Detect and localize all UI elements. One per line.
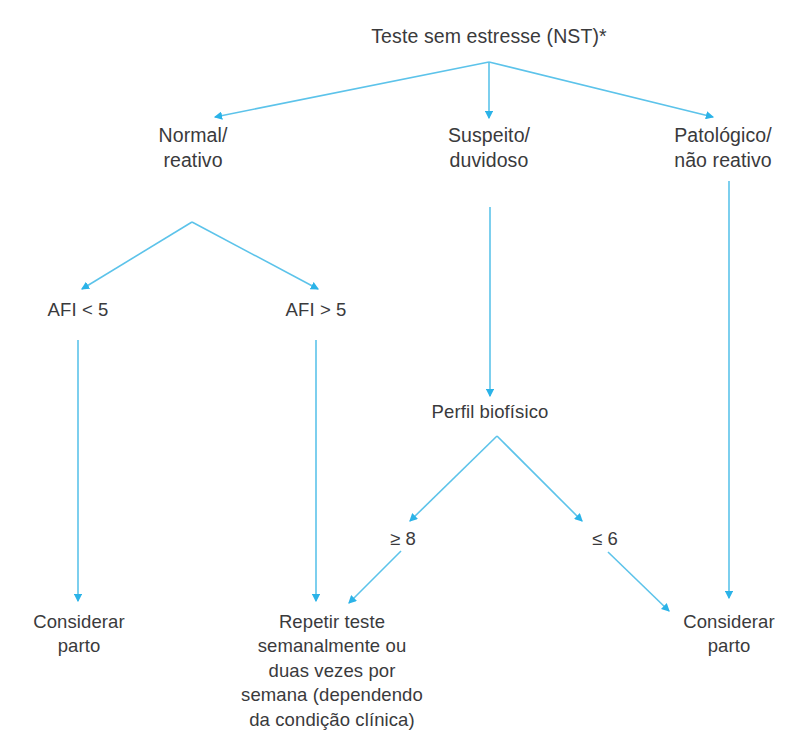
node-afi-lt-5: AFI < 5 (16, 298, 140, 322)
flowchart-diagram: Teste sem estresse (NST)* Normal/ reativ… (0, 0, 806, 753)
node-normal-reativo: Normal/ reativo (118, 123, 268, 173)
node-repetir-teste: Repetir teste semanalmente ou duas vezes… (212, 610, 452, 732)
node-perfil-biofisico: Perfil biofísico (398, 400, 582, 424)
node-score-le-6: ≤ 6 (562, 527, 648, 551)
node-score-ge-8: ≥ 8 (360, 527, 446, 551)
edge-perfil-to-score-ge8 (410, 436, 497, 521)
edge-normal-to-afi-gt5 (192, 222, 318, 289)
node-nst-title: Teste sem estresse (NST)* (309, 24, 669, 49)
node-patologico-nao-reativo: Patológico/ não reativo (640, 123, 806, 173)
edge-perfil-to-score-le6 (497, 436, 582, 521)
edge-score-le6-to-considerar-parto-right (608, 552, 669, 611)
edge-nst-to-patologico (489, 62, 713, 117)
node-afi-gt-5: AFI > 5 (254, 298, 378, 322)
node-considerar-parto-right: Considerar parto (662, 610, 796, 657)
edge-normal-to-afi-lt5 (82, 222, 192, 289)
edge-nst-to-normal (215, 62, 489, 117)
node-considerar-parto-left: Considerar parto (12, 610, 146, 657)
node-suspeito-duvidoso: Suspeito/ duvidoso (414, 123, 564, 173)
edge-score-ge8-to-repetir-teste (349, 551, 401, 603)
